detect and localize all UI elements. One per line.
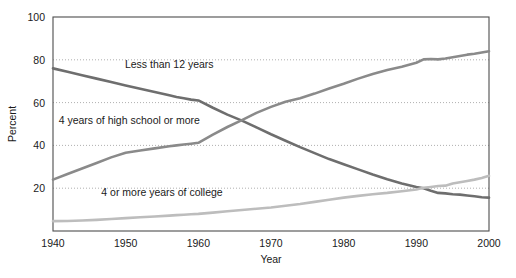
x-tick-1950: 1950 (114, 237, 138, 249)
education-attainment-line-chart: 1940195019601970198019902000 20406080100… (0, 0, 516, 278)
y-tick-60: 60 (33, 97, 45, 109)
x-axis-title: Year (260, 253, 282, 265)
y-axis-title: Percent (6, 106, 18, 142)
x-tick-1980: 1980 (332, 237, 356, 249)
chart-container: 1940195019601970198019902000 20406080100… (0, 0, 516, 278)
y-tick-40: 40 (33, 139, 45, 151)
x-tick-1970: 1970 (259, 237, 283, 249)
x-tick-2000: 2000 (477, 237, 501, 249)
x-tick-1990: 1990 (405, 237, 429, 249)
y-tick-20: 20 (33, 182, 45, 194)
college-label: 4 or more years of college (101, 186, 223, 198)
less-than-12-years-label: Less than 12 years (125, 58, 214, 70)
x-tick-1960: 1960 (187, 237, 211, 249)
y-tick-100: 100 (27, 11, 45, 23)
x-tick-1940: 1940 (41, 237, 65, 249)
y-tick-80: 80 (33, 54, 45, 66)
chart-background (0, 0, 516, 278)
high-school-or-more-label: 4 years of high school or more (59, 114, 200, 126)
